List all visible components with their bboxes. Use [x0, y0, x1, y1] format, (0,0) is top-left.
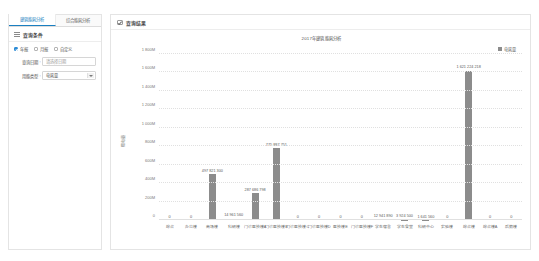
- bar-slot[interactable]: 287 686 798: [244, 54, 265, 220]
- x-axis-tick: 门诊医技楼A: [244, 223, 267, 229]
- gridline: [159, 90, 522, 91]
- bar-slot[interactable]: 12 941 890: [373, 54, 394, 220]
- bar-slot[interactable]: 0: [159, 54, 180, 220]
- query-conditions-header: 查询条件: [9, 27, 101, 42]
- chevron-down-icon[interactable]: [87, 73, 94, 78]
- x-axis-tick: 门诊医技楼B: [265, 223, 288, 229]
- radio-label-monthly: 月报: [40, 46, 48, 52]
- gridline: [159, 127, 522, 128]
- y-axis-tick: 1 800M: [142, 47, 155, 52]
- app-root: 建筑能耗分析 综合能耗分析 查询条件 年报 月报 自定: [0, 0, 539, 261]
- x-axis-tick: 办公楼: [185, 223, 197, 229]
- checkbox-icon: [117, 20, 123, 26]
- x-axis-tick: 实验楼: [441, 223, 453, 229]
- bar-slot[interactable]: 1 641 560: [415, 54, 436, 220]
- gridline: [159, 108, 522, 109]
- x-axis-tick: 商场楼: [206, 223, 218, 229]
- y-axis-tick: 800M: [145, 139, 155, 144]
- bar-slot[interactable]: 0: [308, 54, 329, 220]
- energy-type-select[interactable]: 电耗量: [42, 71, 96, 80]
- query-result-title: 查询结果: [126, 19, 146, 26]
- x-axis-tick: 门诊医技楼C: [286, 223, 309, 229]
- bar-slot[interactable]: 497 821 300: [202, 54, 223, 220]
- query-result-panel: 查询结果 2017年建筑能耗分析 电耗量 用电量 00497 821 30014…: [110, 14, 531, 250]
- radio-yearly[interactable]: 年报: [14, 46, 28, 52]
- energy-type-selected-value: 电耗量: [46, 73, 58, 78]
- x-axis-tick: 综合: [166, 223, 174, 229]
- gridline: [159, 164, 522, 165]
- query-date-label: 查询日期: [14, 59, 38, 65]
- bar-slot[interactable]: 0: [287, 54, 308, 220]
- radio-monthly[interactable]: 月报: [34, 46, 48, 52]
- gridline: [159, 201, 522, 202]
- bar-value-label: 497 821 300: [202, 169, 223, 173]
- tab-building-energy-analysis[interactable]: 建筑能耗分析: [9, 14, 56, 26]
- legend-swatch-icon: [498, 47, 502, 51]
- x-axis-tick: 学生宿舍: [375, 223, 391, 229]
- checkbox-icon-monthly[interactable]: [34, 47, 38, 51]
- y-axis-tick: 600M: [145, 157, 155, 162]
- chart-legend[interactable]: 电耗量: [498, 46, 517, 52]
- checkbox-icon-custom[interactable]: [54, 47, 58, 51]
- bar[interactable]: [209, 174, 216, 220]
- bar-slot[interactable]: 1 621 224 218: [458, 54, 479, 220]
- query-result-header: 查询结果: [111, 15, 530, 30]
- plot-area: 00497 821 30014 961 560287 686 798775 88…: [159, 54, 522, 220]
- gridline: [159, 219, 522, 220]
- bar[interactable]: [273, 148, 280, 220]
- bar-slot[interactable]: 0: [479, 54, 500, 220]
- bar-value-label: 287 686 798: [245, 188, 266, 192]
- x-axis-tick: 科研楼: [228, 223, 240, 229]
- y-axis-label: 用电量: [120, 135, 126, 147]
- tab-comprehensive-energy-analysis[interactable]: 综合能耗分析: [56, 15, 102, 26]
- x-axis-tick: 医技楼E: [333, 223, 348, 229]
- radio-label-custom: 自定义: [60, 46, 72, 52]
- bar-series: 00497 821 30014 961 560287 686 798775 88…: [159, 54, 522, 220]
- x-axis-tick: 学生食堂: [397, 223, 413, 229]
- y-axis-tick: 200M: [145, 194, 155, 199]
- bar-slot[interactable]: 0: [437, 54, 458, 220]
- y-axis-tick: 1 000M: [142, 120, 155, 125]
- bar-slot[interactable]: 14 961 560: [223, 54, 244, 220]
- y-axis-tick: 1 400M: [142, 83, 155, 88]
- report-type-radio-group: 年报 月报 自定义: [14, 46, 96, 52]
- radio-custom[interactable]: 自定义: [54, 46, 72, 52]
- bar-slot[interactable]: 0: [501, 54, 522, 220]
- x-axis-tick: 门诊医技楼F: [351, 223, 373, 229]
- query-form: 年报 月报 自定义 查询日期 : 请选择日期 用能类型 :: [9, 42, 101, 80]
- query-date-row: 查询日期 : 请选择日期: [14, 57, 96, 66]
- query-conditions-panel: 建筑能耗分析 综合能耗分析 查询条件 年报 月报 自定: [8, 14, 102, 250]
- energy-type-label: 用能类型: [14, 73, 38, 79]
- y-axis-tick: 1 600M: [142, 65, 155, 70]
- legend-label: 电耗量: [504, 46, 516, 52]
- query-date-input[interactable]: 请选择日期: [42, 57, 96, 66]
- x-axis-tick: 综合楼: [463, 223, 475, 229]
- gridline: [159, 182, 522, 183]
- bar-slot[interactable]: 0: [351, 54, 372, 220]
- bar-value-label: 1 621 224 218: [456, 65, 480, 69]
- x-axis-tick: 后勤楼: [505, 223, 517, 229]
- tab-bar: 建筑能耗分析 综合能耗分析: [9, 15, 101, 27]
- x-axis-tick: 综合楼A: [483, 223, 498, 229]
- bar-slot[interactable]: 3 924 500: [394, 54, 415, 220]
- y-axis-tick: 0: [153, 213, 155, 218]
- bar-slot[interactable]: 0: [330, 54, 351, 220]
- x-axis-tick: 科研中心: [418, 223, 434, 229]
- y-axis-tick: 1 200M: [142, 102, 155, 107]
- y-axis-tick: 400M: [145, 176, 155, 181]
- radio-label-yearly: 年报: [20, 46, 28, 52]
- x-axis-tick: 门诊医技楼D: [308, 223, 331, 229]
- energy-type-row: 用能类型 : 电耗量: [14, 71, 96, 80]
- bar[interactable]: [252, 193, 259, 220]
- list-icon: [14, 32, 20, 37]
- gridline: [159, 53, 522, 54]
- gridline: [159, 145, 522, 146]
- bar-slot[interactable]: 0: [180, 54, 201, 220]
- query-conditions-title: 查询条件: [23, 31, 43, 38]
- bar-value-label: 3 924 500: [396, 214, 413, 218]
- bar-chart: 2017年建筑能耗分析 电耗量 用电量 00497 821 30014 961 …: [111, 30, 532, 252]
- checkbox-icon-yearly[interactable]: [14, 47, 18, 51]
- bar-slot[interactable]: 775 887 751: [266, 54, 287, 220]
- gridline: [159, 71, 522, 72]
- chart-title: 2017年建筑能耗分析: [111, 35, 532, 41]
